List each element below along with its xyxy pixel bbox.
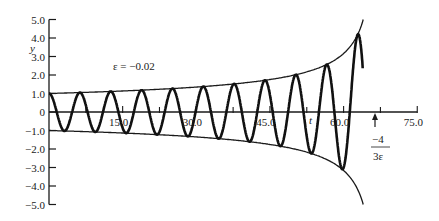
epsilon-annotation: ε = −0.02 bbox=[113, 60, 155, 72]
x-axis-label: t bbox=[309, 114, 313, 126]
singularity-marker: −4 3ε bbox=[371, 113, 390, 162]
y-tick-label: −1.0 bbox=[25, 125, 45, 137]
y-tick-label: −2.0 bbox=[25, 143, 45, 155]
y-tick-label: 0 bbox=[40, 106, 46, 118]
y-tick-label: 5.0 bbox=[31, 14, 45, 26]
oscillation-curve bbox=[49, 34, 363, 169]
chart: 5.04.03.02.01.00−1.0−2.0−3.0−4.0−5.0 15.… bbox=[0, 0, 439, 221]
upper-envelope-curve bbox=[49, 20, 363, 94]
y-tick-label: −4.0 bbox=[25, 180, 45, 192]
up-arrow-icon bbox=[372, 113, 378, 120]
y-tick-label: −3.0 bbox=[25, 162, 45, 174]
y-axis-label: y bbox=[29, 42, 35, 54]
y-tick-label: 1.0 bbox=[31, 88, 45, 100]
y-tick-label: 2.0 bbox=[31, 69, 45, 81]
singularity-denominator: 3ε bbox=[373, 150, 384, 162]
y-tick-label: −5.0 bbox=[25, 199, 45, 211]
x-tick-label: 75.0 bbox=[404, 116, 424, 128]
x-tick-label: 60.0 bbox=[330, 116, 350, 128]
singularity-numerator: −4 bbox=[372, 133, 384, 145]
